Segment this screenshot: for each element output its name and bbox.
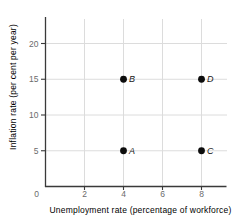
point-label-B: B (129, 74, 135, 84)
point-label-D: D (207, 74, 214, 84)
data-point-D (198, 76, 205, 83)
y-tick-label-20: 20 (29, 39, 39, 49)
chart-canvas: 510152024680 ABCD Unemployment rate (per… (0, 0, 242, 219)
point-label-A: A (128, 146, 135, 156)
y-tick-label-10: 10 (29, 110, 39, 120)
y-axis-title: Inflation rate (per cent per year) (8, 24, 18, 150)
gridlines (46, 19, 228, 187)
data-point-C (198, 147, 205, 154)
x-tick-label-6: 6 (160, 189, 165, 199)
origin-label: 0 (34, 189, 39, 199)
tick-labels: 510152024680 (29, 39, 204, 200)
x-tick-label-4: 4 (121, 189, 126, 199)
x-axis-title: Unemployment rate (percentage of workfor… (50, 205, 232, 215)
phillips-scatter-figure: 510152024680 ABCD Unemployment rate (per… (0, 0, 242, 219)
y-tick-label-15: 15 (29, 74, 39, 84)
y-tick-label-5: 5 (34, 146, 39, 156)
axes (45, 17, 227, 187)
data-point-A (120, 147, 127, 154)
x-tick-label-8: 8 (199, 189, 204, 199)
x-tick-label-2: 2 (82, 189, 87, 199)
data-point-B (120, 76, 127, 83)
point-label-C: C (207, 146, 214, 156)
